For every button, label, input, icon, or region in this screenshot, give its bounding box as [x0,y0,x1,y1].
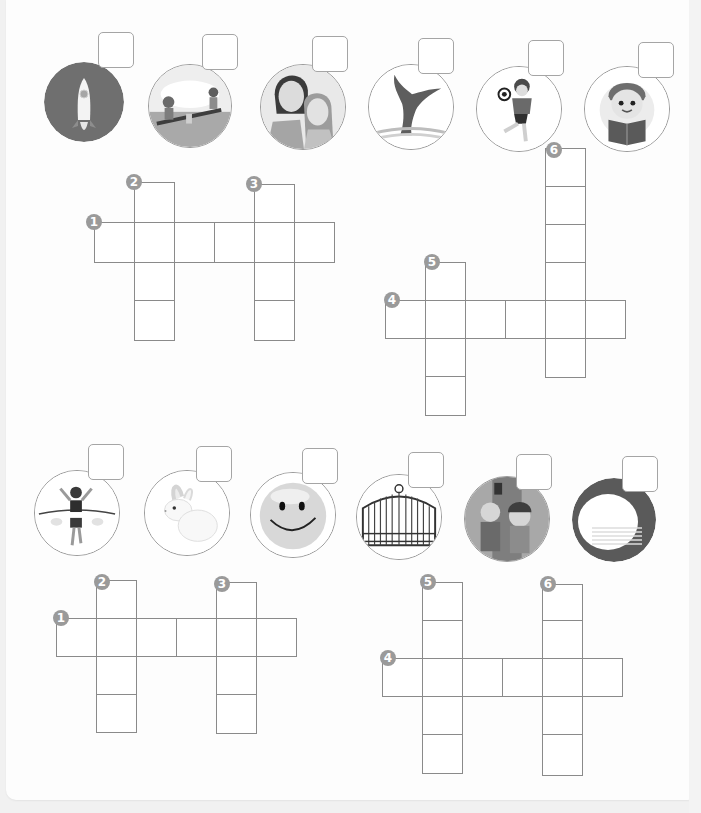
crossword-cell[interactable] [134,262,175,301]
answer-box[interactable] [196,446,232,482]
clue-number-1: 1 [86,214,102,230]
crossword-cell[interactable] [96,618,137,657]
crossword-cell[interactable] [254,222,295,263]
clue-number-2: 2 [126,174,142,190]
crossword-cell[interactable] [176,618,217,657]
crossword-cell[interactable] [545,300,586,339]
crossword-cell[interactable] [216,618,257,657]
answer-box[interactable] [312,36,348,72]
crossword-cell[interactable] [94,222,135,263]
crossword-cell[interactable] [545,224,586,263]
crossword-cell[interactable] [582,658,623,697]
soccer-boy-icon [476,66,562,152]
crossword-cell[interactable] [134,222,175,263]
crossword-cell[interactable] [96,656,137,695]
answer-box[interactable] [528,40,564,76]
answer-box[interactable] [418,38,454,74]
rocket-icon [44,62,124,142]
crossword-cell[interactable] [542,734,583,776]
reading-boy-icon [584,66,670,152]
crossword-cell[interactable] [542,696,583,735]
crossword-cell[interactable] [422,696,463,735]
crossword-cell[interactable] [134,300,175,341]
rabbit-icon [144,470,230,556]
clue-number-2: 2 [94,574,110,590]
crossword-cell[interactable] [256,618,297,657]
crossword-cell[interactable] [542,620,583,659]
mother-daughter-icon [260,64,346,150]
seesaw-icon [148,64,232,148]
crossword-cell[interactable] [545,338,586,378]
whale-tail-icon [368,64,454,150]
clue-number-3: 3 [246,176,262,192]
clue-number-6: 6 [546,142,562,158]
answer-box[interactable] [202,34,238,70]
clue-number-3: 3 [214,576,230,592]
crossword-cell[interactable] [422,658,463,697]
crossword-cell[interactable] [462,658,503,697]
crossword-cell[interactable] [542,658,583,697]
crossword-cell[interactable] [134,182,175,223]
crossword-cell[interactable] [545,262,586,301]
crossword-cell[interactable] [422,620,463,659]
runner-icon [34,470,120,556]
crossword-cell[interactable] [174,222,215,263]
crossword-cell[interactable] [96,694,137,733]
clue-number-6: 6 [540,576,556,592]
clue-number-5: 5 [420,574,436,590]
answer-box[interactable] [302,448,338,484]
crossword-cell[interactable] [585,300,626,339]
clue-number-1: 1 [53,610,69,626]
crossword-cell[interactable] [216,694,257,734]
crossword-cell[interactable] [254,300,295,341]
answer-box[interactable] [88,444,124,480]
crossword-cell[interactable] [214,222,255,263]
worksheet-page: 1 2 3 4 5 6 [6,0,698,800]
crossword-cell[interactable] [422,734,463,774]
clue-number-5: 5 [424,254,440,270]
crossword-cell[interactable] [216,656,257,695]
answer-box[interactable] [516,454,552,490]
crossword-cell[interactable] [545,186,586,225]
answer-box[interactable] [98,32,134,68]
crossword-cell[interactable] [254,262,295,301]
crossword-cell[interactable] [254,184,295,223]
crossword-cell[interactable] [425,300,466,339]
clue-number-4: 4 [380,650,396,666]
crossword-cell[interactable] [505,300,546,339]
clue-number-4: 4 [384,292,400,308]
page-edge [689,0,701,813]
crossword-cell[interactable] [136,618,177,657]
crossword-cell[interactable] [465,300,506,339]
crossword-cell[interactable] [502,658,543,697]
answer-box[interactable] [622,456,658,492]
smiley-face-icon [250,472,336,558]
answer-box[interactable] [408,452,444,488]
crossword-cell[interactable] [425,376,466,416]
crossword-cell[interactable] [425,338,466,377]
answer-box[interactable] [638,42,674,78]
crossword-cell[interactable] [294,222,335,263]
